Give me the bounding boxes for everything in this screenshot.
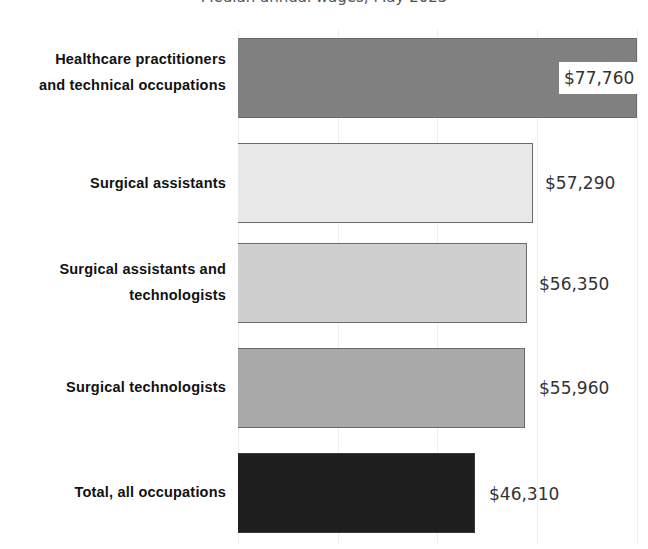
chart-title: Median annual wages, May 2023 xyxy=(0,0,648,6)
category-label-line: and technical occupations xyxy=(0,72,226,98)
bar-surgical-assistants-technologists xyxy=(238,243,527,323)
value-label-healthcare: $77,760 xyxy=(559,62,639,94)
category-label-line: Surgical assistants and xyxy=(0,256,226,282)
category-label-surgical-assistants-technologists: Surgical assistants and technologists xyxy=(0,256,226,308)
value-label-surgical-technologists: $55,960 xyxy=(539,378,609,398)
bar-total xyxy=(238,453,475,533)
category-label-line: technologists xyxy=(0,282,226,308)
category-label-line: Healthcare practitioners xyxy=(0,46,226,72)
gridline xyxy=(637,30,638,545)
value-label-surgical-assistants-technologists: $56,350 xyxy=(539,274,609,294)
bar-surgical-technologists xyxy=(238,348,525,428)
category-label-surgical-assistants: Surgical assistants xyxy=(0,170,226,196)
category-label-total: Total, all occupations xyxy=(0,479,226,505)
value-label-surgical-assistants: $57,290 xyxy=(545,173,615,193)
category-label-surgical-technologists: Surgical technologists xyxy=(0,374,226,400)
category-label-healthcare: Healthcare practitioners and technical o… xyxy=(0,46,226,98)
value-label-total: $46,310 xyxy=(489,484,559,504)
bar-surgical-assistants xyxy=(238,143,533,223)
